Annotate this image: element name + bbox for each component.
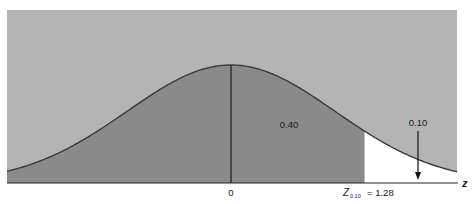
axis-label-z: z [461, 177, 468, 189]
z-critical-subscript: 0.10 [350, 193, 361, 199]
tick-zero-label: 0 [228, 187, 233, 198]
area-middle-label: 0.40 [280, 119, 299, 130]
normal-distribution-chart: 0.40 0.10 0 Z 0.10 = 1.28 z [0, 0, 474, 204]
z-critical-symbol: Z [342, 187, 350, 198]
z-critical-value: = 1.28 [367, 187, 394, 198]
area-tail-label: 0.10 [409, 117, 428, 128]
